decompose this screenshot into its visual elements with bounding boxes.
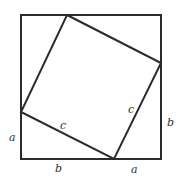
inner-tilted-square: [21, 15, 161, 159]
label-left-a: a: [9, 131, 16, 144]
label-right-b: b: [167, 116, 174, 129]
label-bottom-b: b: [55, 162, 62, 175]
pythagorean-diagram: a b a b c c: [0, 0, 183, 183]
label-lower-c: c: [60, 119, 66, 132]
label-right-c: c: [128, 103, 134, 116]
label-bottom-a: a: [131, 163, 138, 176]
outer-square: [21, 15, 161, 159]
